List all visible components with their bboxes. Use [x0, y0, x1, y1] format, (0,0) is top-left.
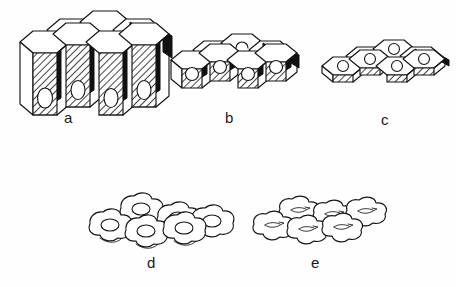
panel-a-label: a [64, 110, 73, 125]
panel-a-cell-1 [20, 31, 70, 115]
panel-e-label: e [311, 255, 320, 270]
figure-root: a [0, 0, 456, 287]
panel-d-label: d [147, 255, 156, 270]
panel-e-flat-squamous [252, 196, 382, 252]
panel-d-squamous [88, 192, 216, 254]
panel-b-cuboidal [163, 30, 293, 102]
panel-b-label: b [225, 110, 234, 125]
panel-c-low-plates [318, 38, 442, 98]
panel-c-label: c [381, 112, 389, 127]
panel-a-columnar [8, 4, 148, 116]
